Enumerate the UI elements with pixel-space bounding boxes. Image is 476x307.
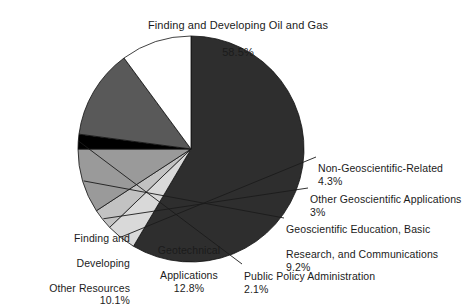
pie-chart-figure: Finding and Developing Oil and Gas 58.5%… [0,0,476,307]
slice-label-geotechnical-applications-pct: 12.8% [128,282,250,294]
slice-label-other-resources-pct: 10.1% [6,294,130,306]
slice-label-non-geoscientific-related-text: Non-Geoscientific-Related [318,162,443,174]
slice-label-other-resources-text-1: Finding and [74,232,130,244]
slice-label-public-policy-administration-text: Public Policy Administration [244,270,375,282]
slice-label-other-resources: Finding and Developing Other Resources 1… [6,220,130,307]
slice-label-geotechnical-applications-text-2: Applications [160,269,218,281]
slice-label-oil-and-gas: Finding and Developing Oil and Gas 58.5% [0,6,476,72]
slice-label-oil-and-gas-text: Finding and Developing Oil and Gas [0,19,476,32]
slice-label-geotechnical-applications: Geotechnical Applications 12.8% [128,232,250,306]
slice-label-geoscientific-education-text-1: Geoscientific Education, Basic [286,223,430,235]
slice-label-other-geoscientific-applications-text: Other Geoscientific Applications [310,193,461,205]
slice-label-oil-and-gas-pct: 58.5% [0,46,476,59]
slice-label-public-policy-administration-pct: 2.1% [244,283,444,295]
slice-label-public-policy-administration: Public Policy Administration 2.1% [244,258,444,307]
slice-label-other-resources-text-2: Developing [76,257,130,269]
slice-label-other-resources-text-3: Other Resources [49,282,130,294]
slice-label-geotechnical-applications-text-1: Geotechnical [158,244,221,256]
